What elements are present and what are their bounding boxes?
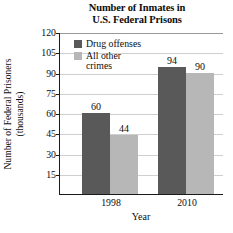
- y-axis-label-line-2: (thousands): [15, 92, 25, 137]
- legend-swatch-all-other-crimes: [74, 52, 82, 60]
- legend-swatch-drug-offenses: [74, 40, 82, 48]
- legend-item-drug-offenses[interactable]: Drug offenses: [74, 39, 141, 50]
- legend-label-all-other-crimes: All other crimes: [86, 51, 121, 72]
- y-axis-tick-labels: 120 105 90 75 60 45 30 15: [28, 33, 56, 195]
- chart-title: Number of Inmates in U.S. Federal Prison…: [46, 2, 228, 25]
- y-tick-label-15: 15: [32, 170, 56, 180]
- legend-label-drug-offenses: Drug offenses: [86, 39, 141, 50]
- y-tick-mark-15: [56, 175, 60, 176]
- value-label-2010-drug: 94: [158, 56, 186, 66]
- value-label-1998-drug: 60: [82, 102, 110, 112]
- y-tick-label-75: 75: [32, 89, 56, 99]
- y-tick-mark-90: [56, 74, 60, 75]
- chart-title-line-1: Number of Inmates in: [46, 2, 228, 14]
- bar-1998-drug-offenses[interactable]: [82, 113, 110, 194]
- bar-1998-all-other-crimes[interactable]: [110, 135, 138, 194]
- y-tick-mark-60: [56, 114, 60, 115]
- x-tick-label-1998: 1998: [91, 198, 131, 208]
- y-tick-mark-30: [56, 155, 60, 156]
- bar-2010-all-other-crimes[interactable]: [186, 73, 214, 195]
- x-tick-label-2010: 2010: [167, 198, 207, 208]
- y-tick-mark-45: [56, 134, 60, 135]
- value-label-2010-other: 90: [186, 62, 214, 72]
- plot-area: 60 44 94 90 Drug offenses All other crim…: [59, 33, 223, 195]
- y-tick-mark-120: [56, 33, 60, 34]
- legend: Drug offenses All other crimes: [74, 39, 141, 73]
- y-axis-label-units: (thousands): [13, 33, 27, 195]
- y-axis-label-line-1: Number of Federal Prisoners: [3, 58, 13, 169]
- legend-item-all-other-crimes[interactable]: All other crimes: [74, 51, 141, 72]
- y-tick-label-120: 120: [32, 28, 56, 38]
- y-tick-label-45: 45: [32, 129, 56, 139]
- y-tick-label-60: 60: [32, 109, 56, 119]
- y-tick-mark-105: [56, 53, 60, 54]
- bar-chart: Number of Inmates in U.S. Federal Prison…: [0, 0, 233, 233]
- bar-2010-drug-offenses[interactable]: [158, 67, 186, 194]
- y-tick-mark-75: [56, 94, 60, 95]
- value-label-1998-other: 44: [110, 124, 138, 134]
- y-tick-label-90: 90: [32, 69, 56, 79]
- y-tick-label-30: 30: [32, 150, 56, 160]
- chart-title-line-2: U.S. Federal Prisons: [46, 14, 228, 26]
- y-tick-label-105: 105: [32, 48, 56, 58]
- gridline-120: [60, 33, 223, 34]
- x-axis-label: Year: [59, 212, 223, 222]
